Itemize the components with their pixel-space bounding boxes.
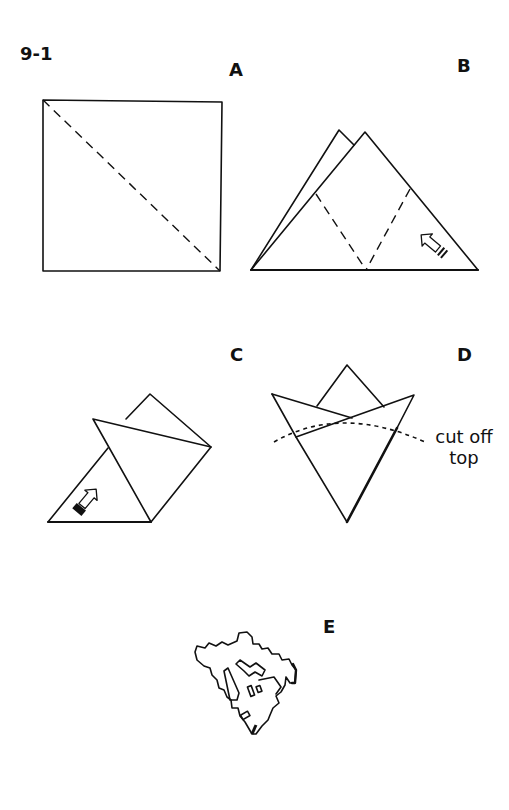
diagram-drawing bbox=[0, 0, 509, 810]
panel-c-fold bbox=[48, 394, 211, 522]
panel-b-triangle bbox=[251, 130, 478, 270]
diagram-canvas: 9-1 A B C D E cut off top bbox=[0, 0, 509, 810]
panel-d-cone bbox=[272, 365, 425, 522]
panel-a-square bbox=[43, 100, 222, 271]
panel-e-snowflake bbox=[195, 632, 296, 734]
fold-arrow-b-icon bbox=[416, 229, 449, 261]
